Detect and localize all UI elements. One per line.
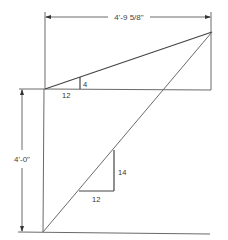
rafter-geometry [18, 32, 212, 234]
left-wall-line [43, 89, 44, 232]
lower-rise-label: 14 [118, 168, 126, 177]
upper-slope-triangle: 4 12 [62, 77, 87, 100]
horizontal-dimension-label: 4'-9 5/8" [114, 13, 143, 22]
horizontal-dimension: 4'-9 5/8" [45, 12, 211, 90]
vertical-dimension: 4'-0" [14, 89, 45, 231]
hip-diagonal-line [43, 32, 212, 232]
vertical-dimension-label: 4'-0" [14, 155, 30, 164]
upper-rafter-line [45, 32, 212, 89]
rafter-diagram: 4'-9 5/8" 4'-0" 4 12 14 12 [0, 0, 228, 240]
lower-run-label: 12 [92, 195, 100, 204]
upper-run-label: 12 [62, 91, 70, 100]
plate-line [45, 89, 211, 90]
upper-rise-label: 4 [83, 80, 87, 89]
lower-slope-triangle: 14 12 [79, 150, 126, 204]
base-line [18, 232, 210, 234]
